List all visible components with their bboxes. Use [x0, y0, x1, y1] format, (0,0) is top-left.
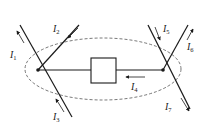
- arrow-i6-icon: [187, 29, 193, 40]
- arrow-i2-icon: [68, 28, 78, 38]
- label-i7: I7: [164, 101, 172, 113]
- label-i5: I5: [162, 23, 170, 35]
- label-i1: I1: [9, 49, 17, 61]
- arrow-i5-icon: [155, 27, 160, 40]
- label-i4: I4: [130, 81, 138, 93]
- arrow-i1-icon: [17, 31, 24, 43]
- box-element: [91, 58, 116, 83]
- branch-line-i1-i3: [20, 25, 72, 117]
- left-node: [36, 68, 40, 72]
- branch-line-i5-i7: [148, 25, 190, 109]
- label-i3: I3: [52, 111, 60, 123]
- label-i6: I6: [186, 41, 194, 53]
- right-node: [161, 68, 165, 72]
- label-i2: I2: [52, 23, 60, 35]
- circuit-diagram: I1 I2 I3 I4 I5 I6 I7: [0, 0, 206, 131]
